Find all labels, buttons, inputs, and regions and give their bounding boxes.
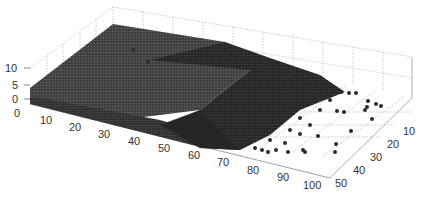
x-tick-60: 60: [188, 149, 200, 161]
y-tick-30: 30: [370, 151, 382, 163]
y-tick-20: 20: [387, 138, 399, 150]
z-axis: 10 5 0: [5, 62, 30, 105]
scatter3d-plot: 10 5 0 0 10 20 30 40 50 60 70 80 90 100 …: [0, 0, 421, 200]
z-tick-5: 5: [12, 79, 18, 91]
x-tick-90: 90: [277, 171, 289, 183]
x-tick-70: 70: [217, 156, 229, 168]
y-tick-50: 50: [335, 177, 347, 189]
y-tick-40: 40: [353, 164, 365, 176]
x-tick-0: 0: [14, 107, 20, 119]
x-tick-100: 100: [303, 179, 321, 191]
y-axis: 10 20 30 40 50: [335, 125, 415, 189]
x-tick-20: 20: [69, 121, 81, 133]
x-tick-80: 80: [247, 164, 259, 176]
x-tick-10: 10: [40, 114, 52, 126]
z-tick-10: 10: [5, 62, 17, 74]
y-tick-10: 10: [403, 125, 415, 137]
x-tick-30: 30: [98, 128, 110, 140]
x-tick-40: 40: [128, 135, 140, 147]
x-tick-50: 50: [158, 142, 170, 154]
z-tick-0: 0: [12, 93, 18, 105]
